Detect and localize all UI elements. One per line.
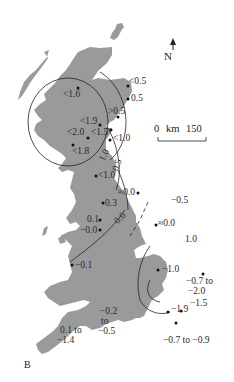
point-label: −1.0: [162, 264, 179, 274]
point-label: <1.0: [113, 133, 130, 143]
point-label: −1.5: [190, 298, 207, 308]
point-label: 0.3: [105, 198, 117, 208]
island-hebrides: [18, 50, 49, 100]
point-label: −0.2: [100, 306, 117, 316]
scale-start: 0: [154, 123, 159, 134]
north-label: N: [164, 50, 172, 62]
point-label: 0.5: [131, 93, 143, 103]
point-label: ≈0.0: [158, 218, 175, 228]
scale-label: 0 km 150: [154, 123, 202, 134]
point-label: −0.0: [80, 225, 97, 235]
point-label: <1.5: [91, 127, 108, 137]
point-label: <1.6: [63, 89, 80, 99]
point-label: −0.5: [98, 326, 115, 336]
point-label: −2.0: [188, 286, 205, 296]
point-label: to: [101, 316, 108, 326]
point-label: −0.5: [171, 195, 188, 205]
point-label: <1.0: [98, 170, 115, 180]
scale-bar: [158, 137, 206, 141]
point-label: <0.5: [129, 76, 146, 86]
point-label: 0.1: [87, 214, 99, 224]
scale-unit: km: [166, 123, 179, 134]
uk-map: [0, 0, 234, 382]
point-label: −1.4: [57, 335, 74, 345]
point-label: −1.9: [171, 304, 188, 314]
point-label: ≈0.0: [118, 187, 135, 197]
scale-end: 150: [186, 123, 202, 134]
north-arrow-icon: [170, 38, 176, 50]
point-label: <1.9: [80, 116, 97, 126]
panel-label: B: [24, 359, 31, 370]
point-label: >0.5: [108, 106, 125, 116]
island-man: [42, 226, 48, 236]
point-label: −0.1: [75, 260, 92, 270]
point-label: <2.0: [67, 127, 84, 137]
point-label: 0.1 to: [60, 325, 82, 335]
island-shetland: [110, 23, 124, 40]
point-label: 1.0: [185, 234, 197, 244]
point-label: −0.7 to −0.9: [163, 335, 210, 345]
point-label: −0.7 to: [186, 276, 213, 286]
point-label: <1.8: [72, 146, 89, 156]
